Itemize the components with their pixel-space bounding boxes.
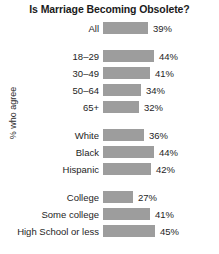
value-label: 27% [138,191,157,204]
bar [103,50,154,62]
category-label: Some college [41,208,99,221]
category-label: All [88,22,99,35]
value-label: 34% [146,84,165,97]
plot-area: All39%18–2944%30–4941%50–6434%65+32%Whit… [0,22,219,252]
value-label: 44% [159,50,178,63]
bar-row: All39% [0,22,219,35]
bar [103,129,144,141]
bar-row: High School or less45% [0,225,219,238]
bar [103,101,139,113]
value-label: 45% [160,225,179,238]
bar [103,146,154,158]
category-label: 65+ [83,101,99,114]
bar-row: Some college41% [0,208,219,221]
value-label: 39% [153,22,172,35]
bar [103,208,150,220]
value-label: 36% [149,129,168,142]
bar-row: 50–6434% [0,84,219,97]
bar [103,163,151,175]
bar-group-education: College27%Some college41%High School or … [0,191,219,242]
category-label: 18–29 [73,50,99,63]
category-label: 50–64 [73,84,99,97]
category-label: White [75,129,99,142]
bar-group-race-ethnicity: White36%Black44%Hispanic42% [0,129,219,180]
value-label: 32% [144,101,163,114]
bar-row: Hispanic42% [0,163,219,176]
category-label: High School or less [17,225,99,238]
bar-row: College27% [0,191,219,204]
bar [103,22,148,34]
bar-group-overall: All39% [0,22,219,39]
bar-chart-figure: Is Marriage Becoming Obsolete? % who agr… [0,0,219,254]
bar [103,225,155,237]
bar-row: White36% [0,129,219,142]
value-label: 41% [155,67,174,80]
bar-row: Black44% [0,146,219,159]
bar-row: 65+32% [0,101,219,114]
bar-row: 30–4941% [0,67,219,80]
bar [103,67,150,79]
bar [103,84,141,96]
bar [103,191,133,203]
category-label: Black [76,146,99,159]
bar-row: 18–2944% [0,50,219,63]
bar-group-age: 18–2944%30–4941%50–6434%65+32% [0,50,219,118]
category-label: Hispanic [63,163,99,176]
value-label: 42% [156,163,175,176]
category-label: College [67,191,99,204]
chart-title: Is Marriage Becoming Obsolete? [0,3,219,15]
value-label: 41% [155,208,174,221]
category-label: 30–49 [73,67,99,80]
value-label: 44% [159,146,178,159]
